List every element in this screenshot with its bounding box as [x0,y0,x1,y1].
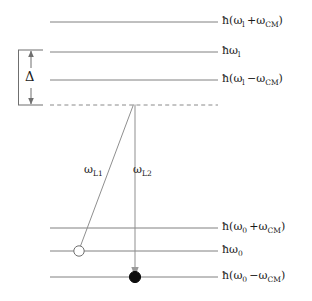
detuning-arrow-down-head [28,98,34,105]
energy-level-label-upper-plus: ħ(ωl +ωCM) [222,15,283,26]
energy-level-label-lower-plus: ħ(ω0 +ωCM) [222,221,285,232]
detuning-symbol-label: Δ [25,70,34,83]
energy-level-label-upper-minus: ħ(ωl −ωCM) [222,73,283,84]
energy-level-label-upper-center: ħωl [222,45,240,56]
diagram-canvas [0,0,312,301]
transition-label-omega-L2: ωL2 [133,164,152,175]
energy-level-label-lower-center: ħω0 [222,244,243,255]
energy-level-label-lower-minus: ħ(ω0 −ωCM) [222,270,285,281]
transition-label-omega-L1: ωL1 [84,164,103,175]
energy-level-diagram: ħ(ωl +ωCM) ħωl ħ(ωl −ωCM) ħ(ω0 +ωCM) ħω0… [0,0,312,301]
detuning-arrow-up-head [28,51,34,58]
initial-state-marker-open-circle [74,246,84,256]
final-state-marker-filled-circle [129,271,140,282]
